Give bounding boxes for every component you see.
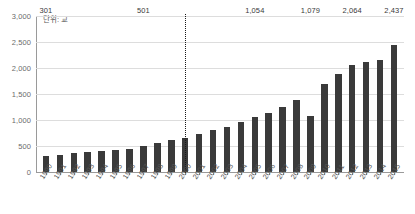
x-label-slot: 1999 — [164, 173, 178, 214]
bar-slot — [234, 16, 248, 172]
x-label-slot: 2001 — [192, 173, 206, 214]
bar-slot: 301 — [39, 16, 53, 172]
x-label-slot: 1996 — [123, 173, 137, 214]
bar-slot — [123, 16, 137, 172]
bar-slot — [164, 16, 178, 172]
bar-slot — [81, 16, 95, 172]
bar[interactable] — [363, 62, 370, 172]
x-label-slot: 2010 — [317, 173, 331, 214]
y-axis-tick-label: 2,000 — [12, 64, 36, 73]
y-axis-tick-label: 500 — [18, 142, 36, 151]
x-label-slot: 1995 — [109, 173, 123, 214]
bar-slot — [150, 16, 164, 172]
x-label-slot: 2009 — [304, 173, 318, 214]
x-label-slot: 1993 — [81, 173, 95, 214]
x-label-slot: 2013 — [359, 173, 373, 214]
bar-slot — [290, 16, 304, 172]
bar[interactable] — [321, 84, 328, 172]
x-label-slot: 2007 — [276, 173, 290, 214]
bar-value-label: 2,437 — [384, 6, 403, 15]
x-label-slot: 2003 — [220, 173, 234, 214]
bar-value-label: 2,064 — [343, 6, 362, 15]
bar[interactable] — [293, 100, 300, 172]
bar-slot: 2,437 — [387, 16, 401, 172]
year-marker-line — [185, 14, 186, 173]
bar-slot — [359, 16, 373, 172]
bar-slot — [331, 16, 345, 172]
bar-value-label: 1,054 — [245, 6, 264, 15]
x-label-slot: 1998 — [150, 173, 164, 214]
bar-slot: 501 — [136, 16, 150, 172]
bar-series: 3015011,0541,0792,0642,437 — [36, 16, 404, 172]
y-axis-tick-label: 1,000 — [12, 116, 36, 125]
x-label-slot: 2006 — [262, 173, 276, 214]
x-label-slot: 1990 — [39, 173, 53, 214]
bar[interactable]: 2,437 — [391, 45, 398, 172]
bar-slot — [373, 16, 387, 172]
x-label-slot: 2012 — [345, 173, 359, 214]
bar-slot — [262, 16, 276, 172]
y-axis-tick-label: 1,500 — [12, 90, 36, 99]
bar-chart: 단위: 교 3,0002,5002,0001,5001,0005000 3015… — [0, 0, 415, 214]
bar-slot: 2,064 — [345, 16, 359, 172]
x-label-slot: 1997 — [136, 173, 150, 214]
x-axis-labels: 1990199119921993199419951996199719981999… — [36, 173, 404, 214]
bar[interactable] — [335, 74, 342, 172]
bar-value-label: 301 — [40, 6, 53, 15]
bar[interactable] — [377, 60, 384, 172]
x-label-slot: 2005 — [248, 173, 262, 214]
bar-slot — [317, 16, 331, 172]
bar-slot — [95, 16, 109, 172]
y-axis-tick-label: 0 — [27, 168, 36, 177]
x-label-slot: 2008 — [290, 173, 304, 214]
bar-slot — [220, 16, 234, 172]
bar[interactable]: 2,064 — [349, 65, 356, 172]
bar-slot: 1,054 — [248, 16, 262, 172]
bar-slot: 1,079 — [304, 16, 318, 172]
x-label-slot: 2014 — [373, 173, 387, 214]
bar-slot — [192, 16, 206, 172]
y-axis-tick-label: 2,500 — [12, 38, 36, 47]
x-label-slot: 2011 — [331, 173, 345, 214]
bar-value-label: 501 — [137, 6, 150, 15]
bar-value-label: 1,079 — [301, 6, 320, 15]
x-label-slot: 2000 — [178, 173, 192, 214]
bar-slot — [67, 16, 81, 172]
x-label-slot: 1992 — [67, 173, 81, 214]
x-label-slot: 2002 — [206, 173, 220, 214]
x-label-slot: 1994 — [95, 173, 109, 214]
x-label-slot: 2015 — [387, 173, 401, 214]
bar-slot — [206, 16, 220, 172]
y-axis-tick-label: 3,000 — [12, 12, 36, 21]
x-label-slot: 1991 — [53, 173, 67, 214]
x-label-slot: 2004 — [234, 173, 248, 214]
bar-slot — [276, 16, 290, 172]
bar-slot — [53, 16, 67, 172]
bar-slot — [109, 16, 123, 172]
